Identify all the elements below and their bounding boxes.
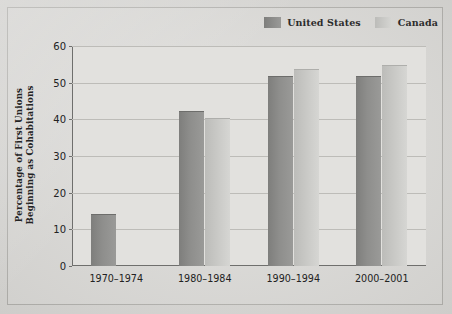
y-axis-tick-label: 10 (53, 224, 66, 235)
bar-group: 1990–1994 (249, 46, 338, 266)
y-axis-tick-label: 0 (60, 261, 66, 272)
bar-united-states[interactable] (356, 76, 381, 266)
bar-group: 1970–1974 (72, 46, 161, 266)
x-axis-category-label: 1970–1974 (72, 273, 161, 284)
legend-item-canada: Canada (375, 17, 438, 28)
legend-label-canada: Canada (398, 17, 438, 28)
legend-item-united-states: United States (264, 17, 361, 28)
bar-canada[interactable] (382, 65, 407, 266)
bar-group-bars (72, 46, 161, 266)
x-axis-category-label: 2000–2001 (338, 273, 427, 284)
bar-united-states[interactable] (268, 76, 293, 266)
x-axis-category-label: 1990–1994 (249, 273, 338, 284)
y-axis-title: Percentage of First Unions Beginning as … (14, 46, 36, 264)
chart-screenshot: United States Canada Percentage of First… (0, 0, 452, 314)
y-axis-title-line-1: Percentage of First Unions (14, 86, 25, 225)
legend-label-united-states: United States (287, 17, 361, 28)
y-axis-tick-label: 20 (53, 187, 66, 198)
legend-swatch-canada (375, 17, 392, 28)
y-axis-tick-label: 30 (53, 151, 66, 162)
x-axis-category-label: 1980–1984 (161, 273, 250, 284)
chart-legend: United States Canada (264, 17, 438, 28)
bar-united-states[interactable] (179, 111, 204, 266)
bar-groups: 1970–19741980–19841990–19942000–2001 (72, 46, 426, 266)
y-axis-tick-label: 60 (53, 41, 66, 52)
bar-group: 2000–2001 (338, 46, 427, 266)
bar-group-bars (249, 46, 338, 266)
y-axis-tick-label: 50 (53, 77, 66, 88)
plot-area: 0102030405060 1970–19741980–19841990–199… (72, 46, 426, 266)
bar-canada[interactable] (205, 118, 230, 266)
bar-canada[interactable] (294, 69, 319, 266)
bar-group-bars (161, 46, 250, 266)
y-axis-tick-label: 40 (53, 114, 66, 125)
bar-united-states[interactable] (91, 214, 116, 266)
y-axis-tick-mark (69, 266, 72, 267)
y-axis-title-line-2: Beginning as Cohabitations (25, 86, 36, 225)
legend-swatch-united-states (264, 17, 281, 28)
bar-group-bars (338, 46, 427, 266)
bar-group: 1980–1984 (161, 46, 250, 266)
